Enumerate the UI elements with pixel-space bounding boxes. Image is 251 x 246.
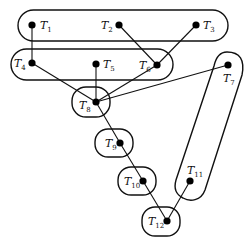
- label-t12: T12: [148, 215, 164, 230]
- label-t4: T4: [14, 57, 26, 72]
- label-t2: T2: [101, 19, 113, 34]
- label-t5: T5: [103, 58, 115, 73]
- edge-t2-t6: [119, 25, 157, 65]
- group-t8: [72, 87, 110, 117]
- label-t7: T7: [223, 72, 235, 87]
- node-t2: [115, 21, 122, 28]
- dependency-edges: [32, 25, 228, 221]
- label-t9: T9: [105, 137, 117, 152]
- node-t12: [163, 217, 170, 224]
- edge-t3-t6: [157, 25, 196, 65]
- edge-t4-t8: [32, 63, 96, 102]
- group-t7-t11: [175, 52, 243, 200]
- label-t1: T1: [40, 19, 52, 34]
- node-t1: [28, 21, 35, 28]
- node-t8: [92, 98, 99, 105]
- task-nodes: [28, 21, 231, 224]
- node-t3: [192, 21, 199, 28]
- group-outlines: [11, 10, 243, 236]
- node-t4: [28, 59, 35, 66]
- task-graph-diagram: T1T2T3T4T5T6T7T8T9T10T11T12: [0, 0, 251, 246]
- node-t5: [92, 60, 99, 67]
- label-t10: T10: [124, 175, 140, 190]
- label-t8: T8: [79, 99, 91, 114]
- label-t6: T6: [139, 59, 151, 74]
- label-t11: T11: [187, 164, 203, 179]
- node-t7: [224, 61, 231, 68]
- node-t10: [139, 177, 146, 184]
- node-t11: [186, 177, 193, 184]
- node-t9: [116, 139, 123, 146]
- node-t6: [153, 61, 160, 68]
- task-labels: T1T2T3T4T5T6T7T8T9T10T11T12: [14, 19, 235, 230]
- label-t3: T3: [203, 19, 215, 34]
